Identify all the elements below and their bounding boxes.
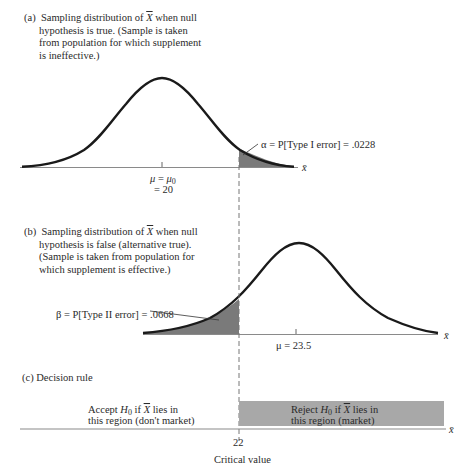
critical-value-label: Critical value	[214, 454, 271, 465]
reject-region-label-line2: this region (market)	[291, 415, 375, 427]
critical-value-number: 22	[233, 437, 244, 448]
alternative-mean-label: μ = 23.5	[276, 340, 311, 351]
accept-region-label-line2: this region (don't market)	[88, 415, 195, 427]
alpha-leader-line	[243, 144, 258, 155]
alternative-distribution-curve	[143, 243, 438, 333]
null-distribution-curve	[22, 78, 294, 167]
panel-b-axis-label: x̄	[443, 330, 449, 341]
alpha-label: α = P[Type I error] = .0228	[261, 139, 375, 150]
null-mean-value: = 20	[154, 184, 173, 195]
beta-label: β = P[Type II error] = .0668	[56, 309, 174, 320]
panel-a-axis-label: x̄	[301, 162, 307, 173]
alpha-shaded-region	[239, 149, 292, 167]
hypothesis-diagram: α = P[Type I error] = .0228 x̄ μ = μ0 = …	[0, 0, 471, 466]
panel-c-axis-label: x̄	[448, 424, 454, 435]
